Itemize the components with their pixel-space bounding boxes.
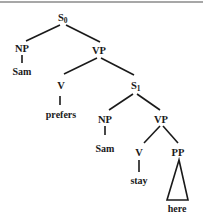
word-stay: stay bbox=[130, 175, 147, 186]
node-vp2: VP bbox=[154, 114, 169, 125]
edge-vp2-v2 bbox=[144, 126, 160, 143]
word-sam: Sam bbox=[13, 66, 33, 77]
syntax-tree-diagram: S0 NP Sam VP V prefers S1 NP Sam VP V st… bbox=[0, 0, 203, 223]
word-sam2: Sam bbox=[96, 143, 116, 154]
node-np2: NP bbox=[98, 114, 113, 125]
node-s0: S0 bbox=[58, 12, 68, 25]
edge-vp2-pp bbox=[163, 126, 178, 143]
node-np: NP bbox=[15, 43, 30, 54]
edge-vp-v bbox=[64, 58, 97, 74]
edge-s1-np bbox=[109, 94, 133, 110]
word-prefers: prefers bbox=[46, 109, 76, 120]
edge-s0-np bbox=[26, 25, 60, 41]
edge-vp-s1 bbox=[101, 58, 134, 75]
word-here: here bbox=[168, 203, 187, 214]
pp-triangle bbox=[167, 160, 188, 200]
node-vp: VP bbox=[92, 45, 107, 56]
node-v2: V bbox=[135, 147, 143, 158]
node-v: V bbox=[57, 80, 65, 91]
node-pp: PP bbox=[172, 147, 185, 158]
edge-s0-vp bbox=[66, 25, 100, 42]
edge-s1-vp bbox=[137, 94, 160, 110]
node-s1: S1 bbox=[131, 80, 141, 93]
